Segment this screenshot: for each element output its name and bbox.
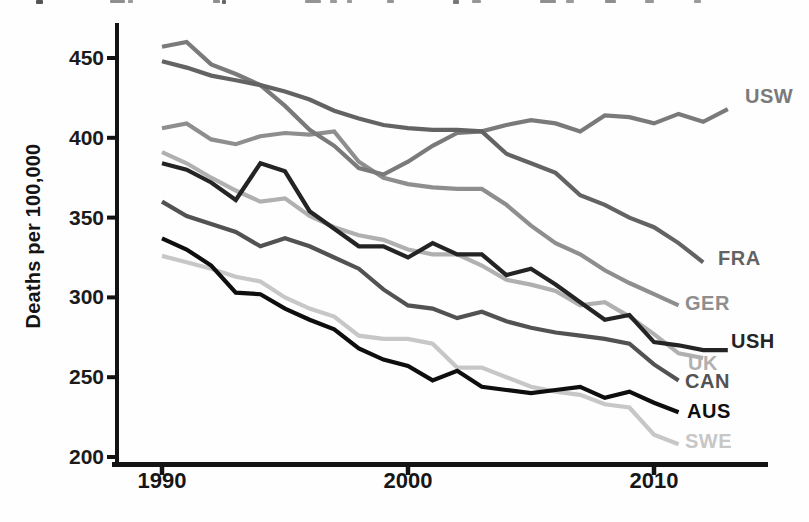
y-axis-title: Deaths per 100,000 bbox=[22, 144, 45, 329]
y-tick-label: 250 bbox=[52, 366, 104, 387]
series-label-swe: SWE bbox=[685, 431, 732, 451]
series-label-ger: GER bbox=[685, 293, 730, 313]
y-tick-label: 450 bbox=[52, 47, 104, 68]
series-line-aus bbox=[162, 238, 679, 412]
y-tick-label: 300 bbox=[52, 286, 104, 307]
series-line-uk bbox=[162, 152, 703, 358]
series-label-fra: FRA bbox=[718, 248, 761, 268]
x-tick-label: 1990 bbox=[117, 470, 207, 492]
x-tick-label: 2000 bbox=[363, 470, 453, 492]
y-tick-label: 200 bbox=[52, 446, 104, 467]
series-line-swe bbox=[162, 256, 679, 444]
series-label-can: CAN bbox=[685, 371, 730, 391]
figure-canvas: Deaths per 100,000 450400350300250200 19… bbox=[0, 0, 809, 522]
series-line-usw bbox=[162, 42, 728, 175]
series-line-ush bbox=[162, 163, 728, 350]
y-tick-label: 400 bbox=[52, 127, 104, 148]
series-label-ush: USH bbox=[731, 331, 775, 351]
series-line-fra bbox=[162, 61, 703, 262]
y-tick-label: 350 bbox=[52, 207, 104, 228]
series-label-usw: USW bbox=[745, 86, 793, 106]
x-tick-label: 2010 bbox=[609, 470, 699, 492]
series-label-aus: AUS bbox=[687, 401, 731, 421]
